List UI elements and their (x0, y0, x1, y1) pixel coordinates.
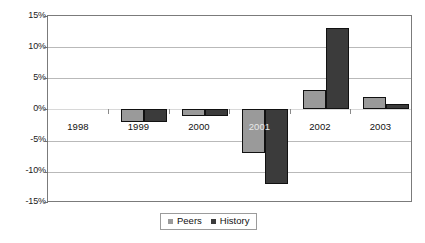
y-axis-label-neg5: -5% (0, 135, 46, 144)
y-tick-0 (44, 109, 48, 110)
x-axis-label-2002: 2002 (290, 122, 350, 132)
y-tick-5 (44, 78, 48, 79)
bar-chart-figure: 15% 10% 5% 0% -5% -10% -15% (0, 0, 425, 243)
bar-history-2000 (205, 109, 228, 116)
legend-label-history: History (220, 216, 250, 226)
bar-history-2002 (326, 28, 349, 109)
x-axis-label-2003: 2003 (350, 122, 411, 132)
y-axis-label-neg15: -15% (0, 197, 46, 206)
x-axis-label-2000: 2000 (169, 122, 229, 132)
plot-area: 1998 1999 2000 2001 2002 2003 (47, 15, 412, 202)
legend-label-peers: Peers (177, 216, 202, 226)
x-tick-0 (108, 109, 109, 114)
y-axis-label-neg10: -10% (0, 166, 46, 175)
y-tick-neg5 (44, 141, 48, 142)
y-axis-label-10: 10% (0, 42, 46, 51)
legend-entry-peers: Peers (168, 216, 202, 226)
y-tick-neg10 (44, 172, 48, 173)
gridline-5 (48, 78, 411, 79)
legend-entry-history: History (211, 216, 250, 226)
y-axis-label-0: 0% (0, 104, 46, 113)
bar-peers-2003 (363, 97, 386, 109)
bar-history-2003 (386, 104, 409, 109)
legend-swatch-history-icon (211, 219, 216, 224)
gridline-neg5 (48, 141, 411, 142)
chart-legend: Peers History (160, 213, 257, 230)
bar-peers-2000 (182, 109, 205, 116)
bar-peers-1999 (121, 109, 144, 122)
x-tick-3 (290, 109, 291, 114)
x-axis-label-1999: 1999 (108, 122, 169, 132)
legend-swatch-peers-icon (168, 219, 173, 224)
y-axis-label-15: 15% (0, 11, 46, 20)
bar-history-1999 (144, 109, 167, 122)
bar-peers-2002 (303, 90, 326, 109)
y-axis-label-5: 5% (0, 73, 46, 82)
x-axis-label-1998: 1998 (48, 122, 108, 132)
gridline-neg10 (48, 172, 411, 173)
x-tick-4 (350, 109, 351, 114)
y-tick-neg15 (44, 202, 48, 203)
x-axis-label-2001: 2001 (229, 122, 290, 132)
y-tick-10 (44, 47, 48, 48)
gridline-10 (48, 47, 411, 48)
x-tick-2 (229, 109, 230, 114)
y-tick-15 (44, 16, 48, 17)
x-tick-1 (169, 109, 170, 114)
